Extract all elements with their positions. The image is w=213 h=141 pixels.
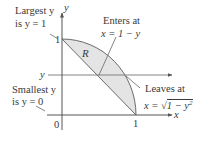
largest-y-line1: Largest y: [15, 5, 54, 16]
x-tick-1: 1: [133, 118, 138, 129]
smallest-y-line2: is y = 0: [12, 96, 43, 107]
enters-at-line1: Enters at: [103, 15, 140, 26]
leaves-at-prefix: x =: [144, 100, 161, 111]
leaves-at-line1: Leaves at: [145, 83, 185, 94]
horizontal-line-label: y: [40, 69, 45, 80]
leaves-at-radicand: 1 − y2: [167, 99, 193, 111]
origin-label: 0: [54, 119, 59, 130]
enters-at-line2: x = 1 − y: [101, 28, 140, 39]
y-axis-label: y: [64, 2, 69, 13]
largest-y-line2: is y = 1: [15, 18, 46, 29]
x-axis-label: x: [174, 109, 179, 120]
region-label: R: [82, 48, 89, 59]
leaves-at-line2: x = √1 − y2: [144, 97, 193, 111]
y-tick-1: 1: [55, 34, 60, 45]
radicand-text: 1 − y: [167, 100, 189, 111]
region-diagram: y x 0 1 1 R y Largest y is y = 1 Smalles…: [0, 0, 213, 141]
exponent: 2: [189, 98, 193, 106]
smallest-y-line1: Smallest y: [12, 84, 56, 95]
